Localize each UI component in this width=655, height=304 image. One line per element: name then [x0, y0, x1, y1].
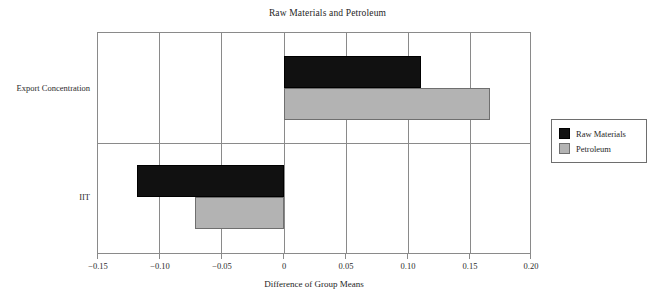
tick-label--0.05: −0.05: [212, 261, 232, 271]
legend-label-raw-materials: Raw Materials: [576, 129, 626, 139]
legend-item-raw-materials: Raw Materials: [559, 126, 640, 141]
chart-title: Raw Materials and Petroleum: [0, 8, 655, 18]
tick-mark-0.20: [530, 254, 531, 259]
legend-swatch-petroleum-icon: [559, 143, 570, 154]
tick-label-0.10: 0.10: [401, 261, 416, 271]
category-label-iit: IIT: [79, 192, 90, 202]
tick-mark-0: [283, 254, 284, 259]
bar-iit-raw-materials: [137, 165, 284, 197]
legend-swatch-raw-materials-icon: [559, 128, 570, 139]
category-separator-line: [98, 143, 530, 144]
category-label-export-concentration: Export Concentration: [17, 83, 90, 93]
tick-label-0.15: 0.15: [463, 261, 478, 271]
tick-label-0.05: 0.05: [339, 261, 354, 271]
bar-iit-petroleum: [195, 197, 284, 229]
tick-label--0.15: −0.15: [88, 261, 108, 271]
tick-label-0.20: 0.20: [524, 261, 539, 271]
x-axis-label: Difference of Group Means: [97, 279, 531, 289]
tick-mark--0.10: [159, 254, 160, 259]
tick-mark-0.10: [407, 254, 408, 259]
legend-label-petroleum: Petroleum: [576, 144, 611, 154]
bar-export-concentration-raw-materials: [284, 56, 421, 88]
plot-area: [97, 32, 531, 254]
tick-label-0: 0: [282, 261, 286, 271]
chart-legend: Raw Materials Petroleum: [551, 119, 647, 163]
tick-label--0.10: −0.10: [150, 261, 170, 271]
bar-export-concentration-petroleum: [284, 88, 490, 120]
tick-mark-0.15: [469, 254, 470, 259]
tick-mark-0.05: [345, 254, 346, 259]
tick-mark--0.05: [221, 254, 222, 259]
chart-figure: Raw Materials and Petroleum Export Conce…: [0, 0, 655, 304]
tick-mark--0.15: [97, 254, 98, 259]
legend-item-petroleum: Petroleum: [559, 141, 640, 156]
